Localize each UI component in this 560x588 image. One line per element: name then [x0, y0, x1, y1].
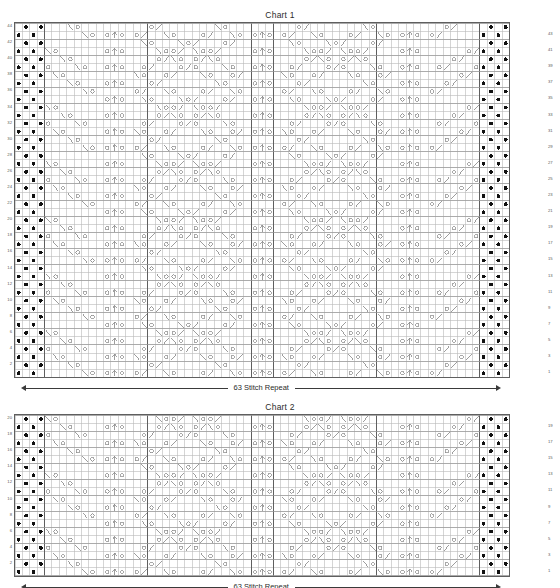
repeat-rule-right	[295, 388, 496, 389]
chart-1-repeat-label: 63 Stitch Repeat	[228, 384, 295, 392]
chart-2-title: Chart 2	[0, 402, 560, 412]
arrow-right-icon	[496, 385, 501, 391]
chart-1-row-wrap: 4442403836343230282624222018161412108642…	[0, 22, 560, 376]
chart-2-repeat-bar: 63 Stitch Repeat	[21, 583, 501, 588]
knitting-chart-page: Chart 1 Chart 2 444240383634323028262422…	[0, 0, 560, 588]
chart-1-row-numbers-right: 434139373533312927252321191715131197531	[546, 22, 560, 376]
chart-2-grid[interactable]	[14, 414, 510, 577]
repeat-rule-right	[295, 587, 496, 588]
chart-2-row-numbers-left: 2018161412108642	[0, 414, 14, 575]
repeat-rule-left	[26, 587, 227, 588]
chart-1-grid[interactable]	[14, 22, 510, 378]
chart-1-repeat-bar: 63 Stitch Repeat	[21, 384, 501, 392]
chart-2-row-wrap: 2018161412108642191715131197531	[0, 414, 560, 575]
repeat-rule-left	[26, 388, 227, 389]
chart-2-repeat-label: 63 Stitch Repeat	[228, 583, 295, 588]
chart-1-row-numbers-left: 4442403836343230282624222018161412108642	[0, 22, 14, 376]
chart-2-row-numbers-right: 191715131197531	[546, 414, 560, 575]
arrow-right-icon	[496, 584, 501, 588]
chart-1-title: Chart 1	[0, 10, 560, 20]
chart-2-block: Chart 2	[0, 402, 560, 412]
chart-1-block: Chart 1	[0, 10, 560, 20]
